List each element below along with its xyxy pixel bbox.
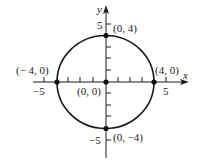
point-label-origin: (0, 0): [77, 85, 101, 98]
plot-area: y x −5 5 5 −5 (0, 4) (− 4, 0) (0, 0) (4,…: [0, 0, 201, 160]
circle-graph: y x −5 5 5 −5 (0, 4) (− 4, 0) (0, 0) (4,…: [0, 0, 201, 160]
point-label-bottom: (0, −4): [113, 131, 143, 144]
point-label-left: (− 4, 0): [16, 64, 49, 77]
y-axis-label: y: [96, 3, 102, 15]
point-origin: [103, 79, 108, 84]
x-tick-label-5: 5: [163, 85, 169, 97]
point-top: [103, 33, 108, 38]
x-axis-label: x: [182, 69, 188, 81]
y-tick-label-neg5: −5: [89, 134, 101, 146]
point-bottom: [103, 126, 108, 131]
point-label-right: (4, 0): [155, 64, 179, 77]
point-left: [54, 79, 59, 84]
point-right: [151, 79, 156, 84]
y-tick-label-5: 5: [97, 19, 103, 31]
point-label-top: (0, 4): [113, 22, 137, 35]
x-tick-label-neg5: −5: [33, 85, 45, 97]
